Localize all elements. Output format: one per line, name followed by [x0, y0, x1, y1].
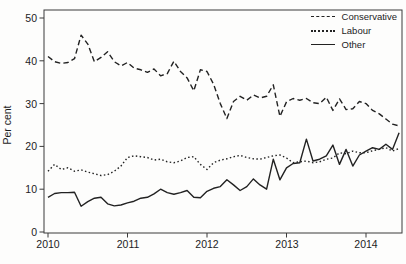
legend-row-labour: Labour — [311, 25, 397, 36]
solid-line-swatch — [311, 44, 335, 45]
legend-label-other: Other — [342, 39, 366, 50]
poll-trend-figure: Per cent 0 10 20 30 40 50 2010 2011 2012… — [0, 0, 406, 264]
ytick-30: 30 — [11, 98, 37, 110]
dashed-line-swatch — [311, 16, 335, 17]
ytick-20: 20 — [11, 140, 37, 152]
ytick-0: 0 — [11, 226, 37, 238]
ytick-40: 40 — [11, 55, 37, 67]
xtick-2012: 2012 — [189, 238, 225, 250]
xtick-2014: 2014 — [348, 238, 384, 250]
legend: Conservative Labour Other — [311, 11, 397, 50]
xtick-2010: 2010 — [30, 238, 66, 250]
legend-row-conservative: Conservative — [311, 11, 397, 22]
xtick-2011: 2011 — [110, 238, 146, 250]
ytick-50: 50 — [11, 12, 37, 24]
legend-row-other: Other — [311, 39, 397, 50]
dotted-line-swatch — [311, 30, 335, 32]
xtick-2013: 2013 — [269, 238, 305, 250]
ytick-10: 10 — [11, 183, 37, 195]
legend-label-labour: Labour — [342, 25, 372, 36]
legend-label-conservative: Conservative — [342, 11, 397, 22]
series-line-other — [48, 133, 399, 207]
